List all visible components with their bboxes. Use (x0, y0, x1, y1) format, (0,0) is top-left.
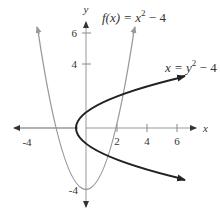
x-tick-neg4: -4 (22, 136, 32, 148)
y-tick-neg4: -4 (69, 184, 79, 196)
x-tick-6: 6 (174, 135, 180, 147)
x-tick-4: 4 (144, 135, 150, 147)
g-equation-label: x = y2 − 4 (164, 58, 217, 75)
x-tick-2: 2 (114, 135, 120, 147)
x-axis-label: x (202, 122, 208, 134)
f-equation-label: f(x) = x2 − 4 (102, 8, 166, 25)
y-tick-6: 6 (72, 27, 78, 39)
x-axis (14, 124, 196, 132)
y-axis-label: y (83, 3, 89, 15)
y-tick-4: 4 (72, 58, 78, 70)
graph: y x 6 4 -4 -4 2 4 6 f(x) = x2 − 4 x = y2… (0, 0, 220, 213)
